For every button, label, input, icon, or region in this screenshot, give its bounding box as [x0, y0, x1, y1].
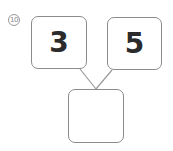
right-number-box: 5 [107, 17, 162, 70]
answer-box[interactable] [68, 89, 124, 143]
left-number-box: 3 [31, 16, 87, 69]
